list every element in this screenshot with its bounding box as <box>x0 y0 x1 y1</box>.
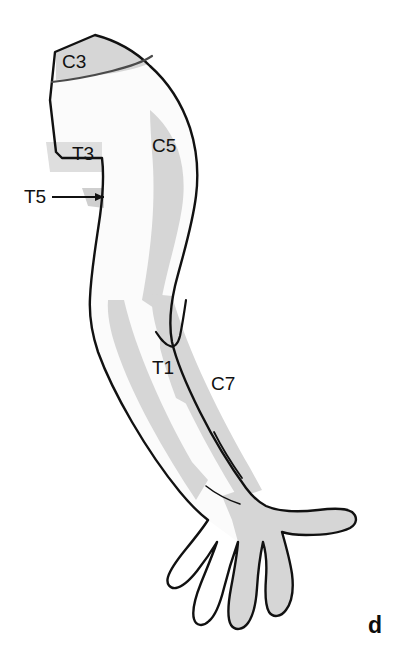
label-c5: C5 <box>152 135 176 156</box>
label-c7: C7 <box>211 373 235 394</box>
upper-limb-dermatome-illustration: C3 C5 T3 T5 T1 C7 d <box>0 0 399 663</box>
dermatome-figure: C3 C5 T3 T5 T1 C7 d <box>0 0 399 663</box>
panel-label: d <box>368 612 382 638</box>
label-t1: T1 <box>152 357 174 378</box>
label-t3: T3 <box>72 143 94 164</box>
label-t5: T5 <box>24 186 46 207</box>
label-c3: C3 <box>62 51 86 72</box>
